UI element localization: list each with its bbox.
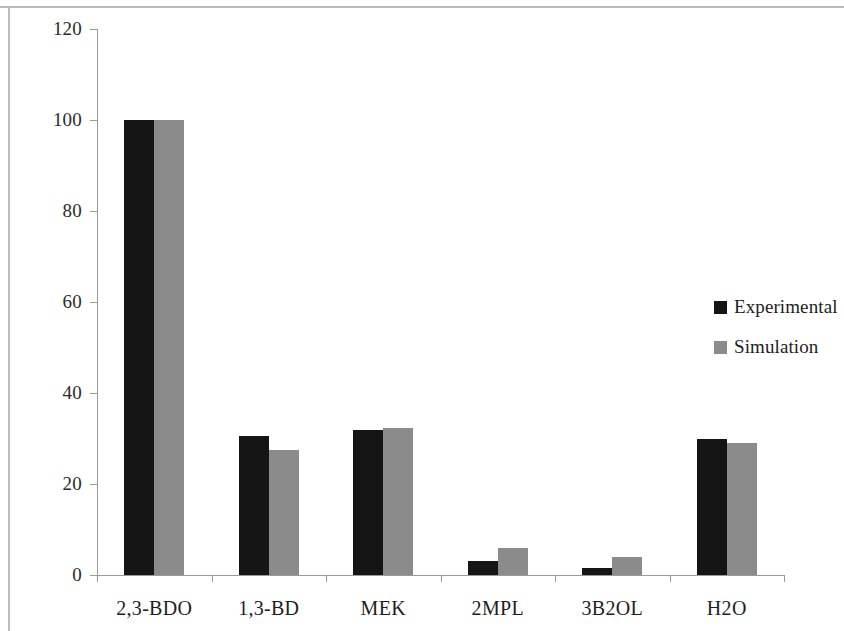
x-axis-tick xyxy=(670,575,671,582)
x-axis-tick xyxy=(555,575,556,582)
bar-group: 2MPL xyxy=(441,29,556,575)
bar-simulation xyxy=(154,120,184,575)
bar-experimental xyxy=(239,436,269,575)
x-axis-category-label: H2O xyxy=(707,597,747,620)
y-axis-tick: 100 xyxy=(90,120,97,121)
chart-page: 2,3-BDO conversion & Selectivity [%] 020… xyxy=(0,0,844,631)
y-axis-tick-label: 100 xyxy=(53,109,82,131)
bar-group: 3B2OL xyxy=(555,29,670,575)
page-frame-left-rule xyxy=(8,6,10,631)
y-axis-tick-label: 40 xyxy=(63,382,82,404)
y-axis-tick-label: 20 xyxy=(63,473,82,495)
bar-group: MEK xyxy=(326,29,441,575)
x-axis-tick xyxy=(212,575,213,582)
bar-experimental xyxy=(353,430,383,575)
y-axis-tick-label: 120 xyxy=(53,18,82,40)
black-square-swatch-icon xyxy=(714,301,727,314)
x-axis-tick xyxy=(441,575,442,582)
bar-experimental xyxy=(697,439,727,576)
gray-square-swatch-icon xyxy=(714,341,727,354)
x-axis-category-label: 3B2OL xyxy=(582,597,644,620)
legend-item-experimental: Experimental xyxy=(714,296,838,318)
x-axis-category-label: 1,3-BD xyxy=(238,597,299,620)
bar-group: 1,3-BD xyxy=(212,29,327,575)
bar-experimental xyxy=(124,120,154,575)
chart-legend: Experimental Simulation xyxy=(714,296,838,358)
plot-area: 0204060801001202,3-BDO1,3-BDMEK2MPL3B2OL… xyxy=(97,29,784,575)
x-axis-tick xyxy=(326,575,327,582)
y-axis-tick: 120 xyxy=(90,29,97,30)
bar-experimental xyxy=(468,561,498,575)
y-axis-tick: 40 xyxy=(90,393,97,394)
y-axis-tick: 0 xyxy=(90,575,97,576)
y-axis-tick-label: 60 xyxy=(63,291,82,313)
y-axis-tick-label: 80 xyxy=(63,200,82,222)
x-axis-tick xyxy=(784,575,785,582)
bar-group: 2,3-BDO xyxy=(97,29,212,575)
y-axis-tick: 60 xyxy=(90,302,97,303)
bar-simulation xyxy=(727,443,757,575)
x-axis-tick xyxy=(97,575,98,582)
legend-label-simulation: Simulation xyxy=(734,336,818,358)
bar-simulation xyxy=(269,450,299,575)
legend-item-simulation: Simulation xyxy=(714,336,838,358)
page-frame-top-rule xyxy=(0,6,844,8)
bar-simulation xyxy=(383,428,413,575)
y-axis-tick: 80 xyxy=(90,211,97,212)
bar-experimental xyxy=(582,568,612,575)
y-axis-tick: 20 xyxy=(90,484,97,485)
x-axis-category-label: MEK xyxy=(361,597,406,620)
x-axis-category-label: 2,3-BDO xyxy=(116,597,192,620)
legend-label-experimental: Experimental xyxy=(734,296,838,318)
bar-simulation xyxy=(612,557,642,575)
y-axis-tick-label: 0 xyxy=(72,564,82,586)
bar-simulation xyxy=(498,548,528,575)
x-axis-category-label: 2MPL xyxy=(472,597,524,620)
